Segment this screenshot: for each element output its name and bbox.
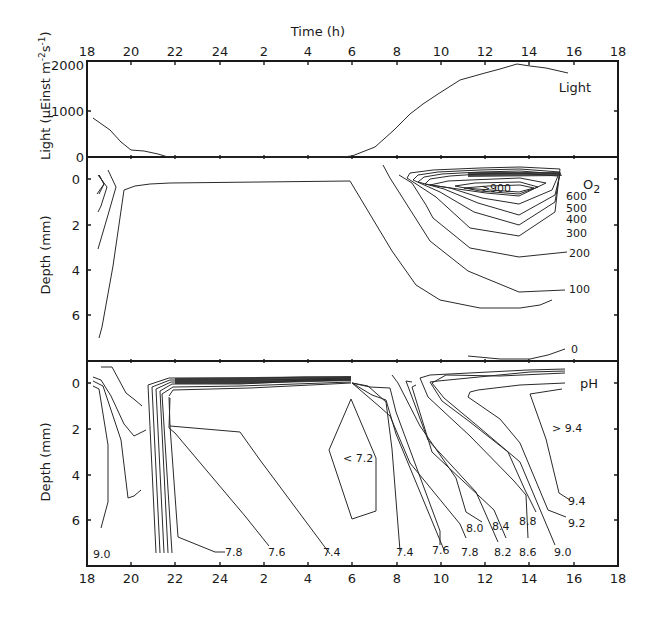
o2-contour-0-bottom [468, 349, 565, 359]
top-axis-title: Time (h) [290, 24, 345, 39]
ph-contour-8.6-body [420, 378, 528, 538]
ph-label-8.6: 8.6 [519, 546, 537, 559]
ph-label-7.6-left: 7.6 [268, 546, 286, 559]
ph-contour-8.8 [430, 371, 565, 382]
top-tick-label: 18 [610, 44, 627, 59]
bottom-tick-label: 14 [521, 571, 538, 586]
bottom-tick-label: 8 [393, 571, 401, 586]
ph-contour-7.6 [169, 398, 269, 546]
ph-label-9.2: 9.2 [568, 517, 586, 530]
ph-label-lt7.2: < 7.2 [343, 452, 373, 465]
ph-label-7.8-left: 7.8 [225, 546, 243, 559]
bottom-tick-label: 20 [123, 571, 140, 586]
o2-label-100: 100 [569, 283, 590, 296]
ph-depth-tick: 2 [72, 422, 80, 437]
bottom-tick-label: 10 [433, 571, 450, 586]
o2-panel: 0 2 4 6 Depth (mm) O2 >900 600 500 400 [38, 165, 600, 359]
ph-label-7.4-right: 7.4 [396, 546, 414, 559]
o2-y-tick-labels: 0 2 4 6 [72, 172, 80, 323]
top-tick-label: 8 [393, 44, 401, 59]
bottom-tick-label: 22 [167, 571, 184, 586]
bottom-tick-label: 6 [348, 571, 356, 586]
o2-label-300: 300 [566, 227, 587, 240]
top-tick-label: 12 [477, 44, 494, 59]
o2-label-200: 200 [569, 247, 590, 260]
ph-contour-7.8-body [169, 397, 225, 552]
ph-panel-label: pH [580, 376, 598, 391]
ph-label-8.0: 8.0 [466, 522, 484, 535]
o2-label-400: 400 [566, 213, 587, 226]
ph-label-8.8: 8.8 [519, 515, 537, 528]
ph-label-9.0-left: 9.0 [93, 548, 111, 561]
top-tick-label: 2 [260, 44, 268, 59]
top-tick-label: 6 [348, 44, 356, 59]
ph-label-8.2: 8.2 [494, 546, 512, 559]
o2-y-axis-title: Depth (mm) [38, 215, 53, 294]
figure-light-o2-ph: Time (h) 18 20 22 24 2 4 6 8 10 12 14 16… [0, 0, 653, 619]
ph-contour-8.6 [420, 369, 565, 378]
top-tick-label: 18 [79, 44, 96, 59]
ph-contour-8.4 [412, 385, 506, 538]
light-y-axis-title: Light (µEinst m-2s-1) [37, 32, 53, 160]
ph-y-tick-labels: 0 2 4 6 [72, 376, 80, 528]
bottom-time-tick-labels: 18 20 22 24 2 4 6 8 10 12 14 16 18 [79, 571, 627, 586]
ph-contour-9.0 [432, 373, 565, 383]
bottom-tick-label: 16 [566, 571, 583, 586]
light-y-tick-labels: 2000 1000 0 [51, 58, 84, 165]
top-tick-label: 22 [167, 44, 184, 59]
ph-label-7.4-left: 7.4 [323, 546, 341, 559]
x-ticks [131, 61, 574, 566]
ph-contour-evening [93, 377, 146, 436]
ph-contour-7.4 [170, 426, 330, 554]
ph-label-7.8-right: 7.8 [461, 546, 479, 559]
top-tick-label: 4 [304, 44, 312, 59]
o2-label-0: 0 [571, 343, 578, 356]
top-tick-label: 14 [521, 44, 538, 59]
top-tick-label: 16 [566, 44, 583, 59]
plot-frame [87, 61, 618, 566]
light-tick-2000: 2000 [51, 58, 84, 73]
bottom-tick-label: 2 [260, 571, 268, 586]
o2-depth-tick: 0 [72, 172, 80, 187]
top-tick-label: 10 [433, 44, 450, 59]
bottom-tick-label: 18 [79, 571, 96, 586]
top-tick-label: 20 [123, 44, 140, 59]
ph-contour-9.2 [468, 392, 566, 517]
ph-label-gt9.4: > 9.4 [552, 422, 582, 435]
light-series-label: Light [559, 80, 591, 95]
top-time-tick-labels: 18 20 22 24 2 4 6 8 10 12 14 16 18 [79, 44, 627, 59]
ph-contour-7.8 [162, 382, 351, 553]
bottom-tick-label: 12 [477, 571, 494, 586]
light-tick-1000: 1000 [51, 104, 84, 119]
light-panel: 2000 1000 0 Light (µEinst m-2s-1) Light [37, 32, 591, 165]
o2-depth-tick: 2 [72, 218, 80, 233]
top-tick-label: 24 [212, 44, 229, 59]
o2-label-gt900: >900 [481, 182, 511, 195]
ph-contour-9.4-body [530, 394, 570, 500]
bottom-tick-label: 4 [304, 571, 312, 586]
bottom-tick-label: 24 [212, 571, 229, 586]
ph-contour-night [152, 378, 351, 553]
o2-surface-band [468, 172, 562, 177]
ph-contour-8.8-body [430, 382, 536, 512]
light-curve [93, 64, 568, 157]
ph-y-axis-title: Depth (mm) [38, 422, 53, 501]
bottom-tick-label: 18 [610, 571, 627, 586]
o2-contour-300 [407, 167, 560, 236]
ph-depth-tick: 6 [72, 513, 80, 528]
ph-label-8.4: 8.4 [492, 520, 510, 533]
ph-depth-tick: 4 [72, 468, 80, 483]
o2-contour-evening [98, 170, 116, 249]
ph-depth-tick: 0 [72, 376, 80, 391]
ph-contour-9.4 [530, 389, 562, 394]
o2-depth-tick: 4 [72, 263, 80, 278]
light-tick-0: 0 [76, 150, 84, 165]
ph-label-9.4: 9.4 [568, 495, 586, 508]
ph-contour-evening [101, 367, 142, 406]
ph-panel: 0 2 4 6 Depth (mm) [38, 367, 598, 561]
ph-contour-9.0 [93, 386, 108, 528]
ph-contour-night [148, 377, 351, 553]
ph-contour-night [160, 380, 351, 553]
o2-depth-tick: 6 [72, 308, 80, 323]
o2-contour-400 [413, 169, 560, 225]
